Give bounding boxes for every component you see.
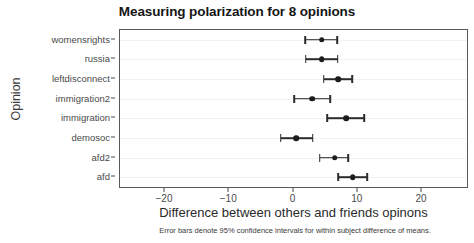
gridline [120,118,467,119]
y-axis-tick-label: russia [85,53,110,64]
data-point-marker [343,116,349,122]
errorbar-cap-low [319,154,321,162]
errorbar-cap-low [304,36,306,44]
chart-title: Measuring polarization for 8 opinions [0,4,474,19]
y-axis-tick-mark [111,156,115,157]
y-axis-tick-label: immigration [61,112,110,123]
y-axis-tick-mark [111,117,115,118]
gridline [120,40,467,41]
x-axis-tick-mark [163,188,164,192]
errorbar-cap-low [305,55,307,63]
gridline [120,177,467,178]
y-axis-tick-label: immigration2 [56,92,110,103]
x-axis-tick-mark [292,188,293,192]
data-point-marker [332,155,338,161]
errorbar-cap-high [367,173,369,181]
gridline [120,158,467,159]
errorbar-cap-low [326,114,328,122]
errorbar-cap-low [293,95,295,103]
errorbar-cap-high [336,36,338,44]
errorbar-cap-high [363,114,365,122]
x-axis-tick-label: 10 [351,193,362,204]
y-axis-tick-label: afd [97,171,110,182]
chart-caption: Error bars denote 95% confidence interva… [119,226,471,235]
plot-panel [119,29,468,188]
data-point-marker [319,37,325,43]
data-point-marker [293,135,299,141]
y-axis-tick-labels: womensrightsrussialeftdisconnectimmigrat… [20,28,115,188]
y-axis-tick-mark [111,136,115,137]
y-axis-tick-label: womensrights [51,33,110,44]
x-axis-tick-mark [228,188,229,192]
errorbar-cap-low [338,173,340,181]
y-axis-tick-mark [111,97,115,98]
errorbar-cap-high [337,55,339,63]
errorbar-cap-high [329,95,331,103]
x-axis-tick-label: 0 [290,193,296,204]
data-point-marker [309,96,315,102]
y-axis-tick-label: leftdisconnect [52,73,110,84]
errorbar-cap-low [280,134,282,142]
y-axis-tick-mark [111,38,115,39]
x-axis-tick-mark [421,188,422,192]
y-axis-tick-mark [111,58,115,59]
x-axis-tick-label: −20 [155,193,172,204]
errorbar-cap-high [351,75,353,83]
y-axis-tick-label: demosoc [71,131,110,142]
x-axis-tick-label: 20 [415,193,426,204]
x-axis-title: Difference between others and friends op… [119,205,468,220]
gridline [120,59,467,60]
y-axis-tick-mark [111,78,115,79]
data-point-marker [319,57,325,63]
x-axis-tick-label: −10 [220,193,237,204]
gridline [120,79,467,80]
chart-figure: Measuring polarization for 8 opinions Op… [0,0,474,243]
errorbar-cap-low [323,75,325,83]
data-point-marker [336,76,342,82]
y-axis-tick-mark [111,176,115,177]
y-axis-tick-label: afd2 [92,151,111,162]
x-axis-tick-mark [356,188,357,192]
errorbar-cap-high [312,134,314,142]
errorbar-cap-high [347,154,349,162]
data-point-marker [350,174,356,180]
